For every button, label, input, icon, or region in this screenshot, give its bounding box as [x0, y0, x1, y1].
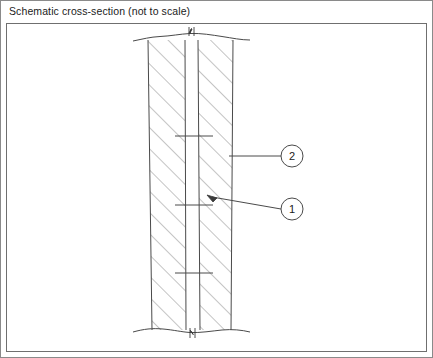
schematic-drawing: 2 1 — [0, 0, 433, 358]
callout-2[interactable]: 2 — [229, 145, 303, 167]
callout-1-label: 1 — [289, 203, 295, 215]
cross-section-svg: 2 1 — [0, 0, 433, 358]
figure-page: Schematic cross-section (not to scale) — [0, 0, 433, 358]
callout-2-label: 2 — [289, 150, 295, 162]
top-break-line — [133, 27, 250, 41]
central-cavity — [185, 40, 200, 330]
